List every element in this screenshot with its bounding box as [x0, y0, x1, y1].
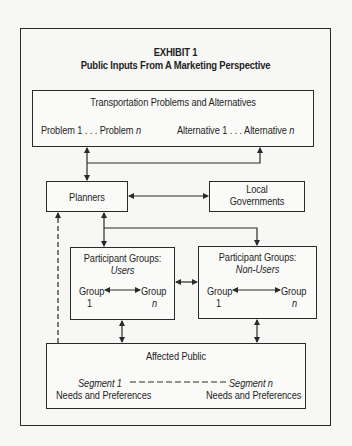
local-governments-line1: Local — [215, 183, 299, 195]
non-users-group-n: Group — [281, 285, 306, 297]
segment-1-label: Segment 1 — [78, 377, 122, 389]
users-group-n-num: n — [152, 297, 157, 309]
non-users-group-1: Group — [207, 285, 232, 297]
users-group-1: Group — [79, 285, 104, 297]
non-users-title: Participant Groups: — [205, 251, 310, 263]
exhibit-diagram: EXHIBIT 1 Public Inputs From A Marketing… — [0, 0, 352, 446]
transportation-title: Transportation Problems and Alternatives — [49, 96, 297, 108]
segment-1-needs: Needs and Preferences — [56, 389, 151, 401]
local-governments-line2: Governments — [215, 195, 299, 207]
alternatives-range: Alternative 1 . . . Alternative n — [177, 124, 294, 136]
planners-label: Planners — [51, 191, 123, 203]
affected-public-title: Affected Public — [62, 350, 291, 362]
problem-start: Problem 1 . . . Problem — [41, 124, 136, 136]
alternative-n: n — [289, 124, 294, 136]
problems-range: Problem 1 . . . Problem n — [41, 124, 141, 136]
exhibit-title: Public Inputs From A Marketing Perspecti… — [36, 59, 316, 71]
users-group-n: Group — [141, 285, 166, 297]
alternative-start: Alternative 1 . . . Alternative — [177, 124, 289, 136]
users-subtitle: Users — [76, 264, 168, 276]
segment-n-label: Segment n — [229, 377, 273, 389]
users-group-1-num: 1 — [87, 297, 92, 309]
non-users-subtitle: Non-Users — [205, 263, 310, 275]
exhibit-label: EXHIBIT 1 — [36, 46, 316, 58]
segment-n-needs: Needs and Preferences — [206, 389, 301, 401]
non-users-group-1-num: 1 — [216, 297, 221, 309]
problem-n: n — [136, 124, 141, 136]
users-title: Participant Groups: — [76, 252, 168, 264]
non-users-group-n-num: n — [292, 297, 297, 309]
